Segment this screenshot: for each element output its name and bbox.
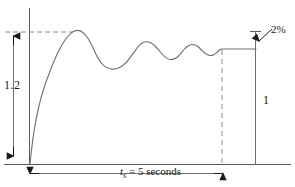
plot-canvas (0, 0, 295, 187)
overshoot-label: 1.2 (4, 78, 21, 93)
settling-time-label: ts = 5 seconds (120, 165, 181, 180)
step-response-figure: 1.2 1 2% ts = 5 seconds (0, 0, 295, 187)
steady-state-label: 1 (263, 93, 269, 108)
settling-time-equation: = 5 seconds (126, 165, 181, 177)
tolerance-band-label: 2% (271, 23, 286, 35)
